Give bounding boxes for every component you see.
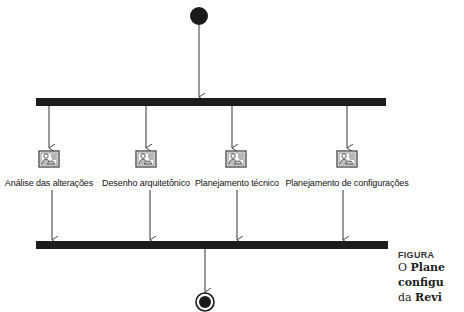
figure-label: FIGURA	[398, 250, 445, 260]
activity-diagram	[0, 0, 464, 312]
caption-line-2: configu	[398, 275, 445, 290]
activity-label: Desenho arquitetônico	[102, 178, 190, 188]
activity-icon	[337, 151, 357, 167]
activity-icon	[226, 151, 246, 167]
activity-label: Planejamento técnico	[195, 178, 279, 188]
caption-line-3: da Revi	[398, 290, 445, 305]
activity-label: Análise das alterações	[5, 178, 93, 188]
caption-line-1: O Plane	[398, 260, 445, 275]
activity-label: Planejamento de configurações	[285, 178, 408, 188]
join-bar	[36, 241, 388, 249]
figure-caption: FIGURA O Plane configu da Revi	[398, 250, 445, 305]
fork-bar	[36, 98, 386, 106]
final-node	[196, 293, 214, 311]
activity-icon	[136, 151, 156, 167]
initial-node	[190, 7, 208, 25]
activity-icon	[39, 151, 59, 167]
